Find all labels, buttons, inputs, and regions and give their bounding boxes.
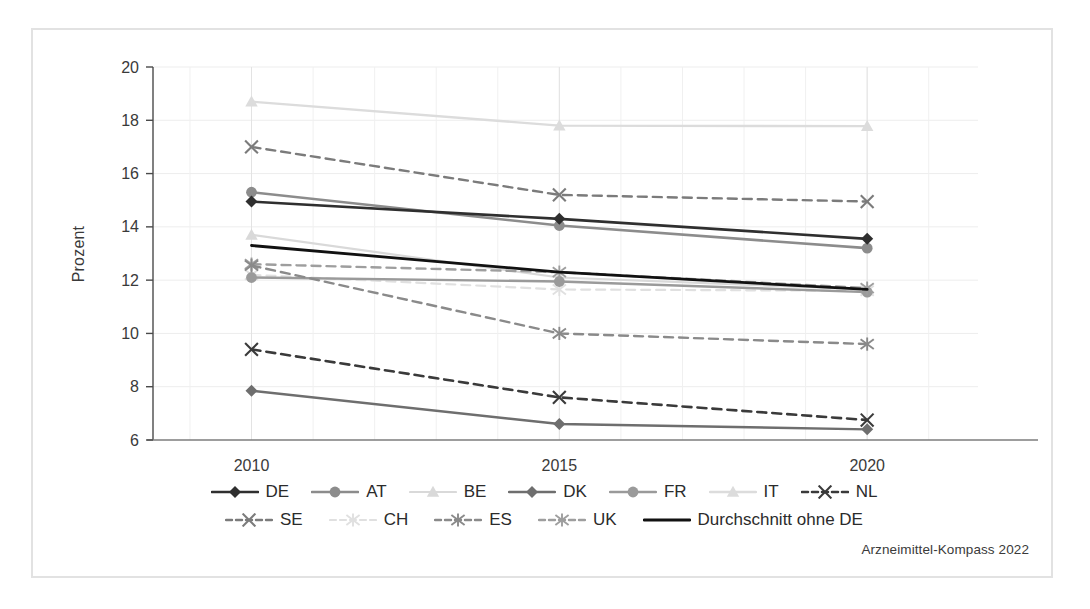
marker-triangle xyxy=(245,229,257,240)
legend-row-1: DEATBEDKFRITNL xyxy=(33,478,1055,506)
legend-swatch-fr-icon xyxy=(609,485,657,499)
legend-swatch-it-icon xyxy=(709,485,757,499)
legend-item-dk[interactable]: DK xyxy=(508,482,587,502)
legend-item-at[interactable]: AT xyxy=(311,482,386,502)
legend-label: SE xyxy=(280,510,303,530)
x-tick-label: 2010 xyxy=(234,457,270,474)
marker-circle xyxy=(628,487,639,498)
legend-item-de[interactable]: DE xyxy=(211,482,290,502)
marker-diamond xyxy=(861,233,873,245)
legend-item-durchschnitt-ohne-de[interactable]: Durchschnitt ohne DE xyxy=(643,510,863,530)
y-axis-label: Prozent xyxy=(70,194,88,314)
marker-asterisk xyxy=(452,513,465,526)
marker-diamond xyxy=(526,486,538,498)
legend-swatch-be-icon xyxy=(409,485,457,499)
y-tick-label: 14 xyxy=(121,218,139,235)
legend-label: AT xyxy=(366,482,386,502)
legend-swatch-se-icon xyxy=(225,513,273,527)
y-tick-label: 10 xyxy=(121,325,139,342)
legend-label: BE xyxy=(464,482,487,502)
y-tick-label: 18 xyxy=(121,112,139,129)
marker-diamond xyxy=(526,486,538,498)
chart-legend: DEATBEDKFRITNL SECHESUKDurchschnitt ohne… xyxy=(33,478,1055,534)
legend-label: CH xyxy=(384,510,409,530)
marker-diamond xyxy=(246,196,258,208)
legend-item-fr[interactable]: FR xyxy=(609,482,687,502)
legend-label: DE xyxy=(266,482,290,502)
marker-asterisk xyxy=(346,513,359,526)
marker-diamond xyxy=(229,486,241,498)
marker-asterisk xyxy=(555,513,568,526)
y-tick-label: 6 xyxy=(130,432,139,449)
marker-circle xyxy=(330,487,341,498)
legend-swatch-de-icon xyxy=(211,485,259,499)
marker-x xyxy=(818,486,831,499)
x-tick-label: 2015 xyxy=(542,457,578,474)
marker-x xyxy=(243,514,256,527)
legend-item-uk[interactable]: UK xyxy=(538,510,617,530)
legend-item-ch[interactable]: CH xyxy=(329,510,409,530)
legend-swatch-durchschnitt-ohne-de-icon xyxy=(643,513,691,527)
legend-label: NL xyxy=(856,482,878,502)
legend-row-2: SECHESUKDurchschnitt ohne DE xyxy=(33,506,1055,534)
legend-label: IT xyxy=(764,482,779,502)
legend-label: Durchschnitt ohne DE xyxy=(698,510,863,530)
legend-label: FR xyxy=(664,482,687,502)
legend-item-se[interactable]: SE xyxy=(225,510,303,530)
marker-diamond xyxy=(246,196,258,208)
legend-swatch-uk-icon xyxy=(538,513,586,527)
marker-diamond xyxy=(229,486,241,498)
legend-item-nl[interactable]: NL xyxy=(801,482,878,502)
legend-swatch-dk-icon xyxy=(508,485,556,499)
y-tick-label: 8 xyxy=(130,378,139,395)
legend-label: DK xyxy=(563,482,587,502)
x-tick-label: 2020 xyxy=(849,457,885,474)
marker-diamond xyxy=(861,233,873,245)
marker-circle xyxy=(628,487,639,498)
y-tick-label: 12 xyxy=(121,272,139,289)
legend-item-be[interactable]: BE xyxy=(409,482,487,502)
marker-triangle xyxy=(245,229,257,240)
legend-swatch-at-icon xyxy=(311,485,359,499)
legend-item-es[interactable]: ES xyxy=(434,510,512,530)
legend-item-it[interactable]: IT xyxy=(709,482,779,502)
legend-swatch-nl-icon xyxy=(801,485,849,499)
legend-label: ES xyxy=(489,510,512,530)
y-tick-label: 16 xyxy=(121,165,139,182)
chart-figure: Prozent 68101214161820201020152020 DEATB… xyxy=(31,28,1053,578)
marker-circle xyxy=(246,272,257,283)
legend-swatch-es-icon xyxy=(434,513,482,527)
line-chart: 68101214161820201020152020 xyxy=(33,30,1055,490)
marker-diamond xyxy=(553,418,565,430)
marker-circle xyxy=(246,272,257,283)
marker-diamond xyxy=(553,418,565,430)
legend-label: UK xyxy=(593,510,617,530)
y-tick-label: 20 xyxy=(121,59,139,76)
legend-swatch-ch-icon xyxy=(329,513,377,527)
source-note: Arzneimittel-Kompass 2022 xyxy=(861,542,1029,557)
marker-circle xyxy=(330,487,341,498)
